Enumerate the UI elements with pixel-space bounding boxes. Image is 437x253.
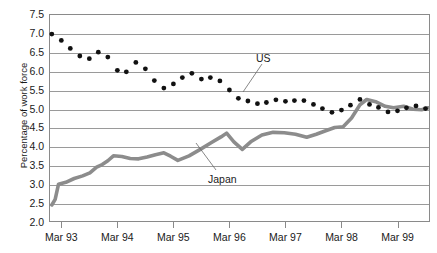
- x-tick-mark: [61, 222, 62, 228]
- gridline: [50, 166, 429, 167]
- y-tick-label: 3.0: [14, 178, 44, 190]
- y-tick-label: 4.0: [14, 140, 44, 152]
- x-tick-label: Mar 99: [381, 231, 414, 243]
- y-tick-label: 2.0: [14, 216, 44, 228]
- x-tick-mark: [229, 222, 230, 228]
- y-tick-label: 7.5: [14, 8, 44, 20]
- gridline: [50, 110, 429, 111]
- chart-root: Percentage of work force 7.57.06.56.05.5…: [0, 0, 437, 253]
- x-tick-label: Mar 98: [325, 231, 358, 243]
- y-tick-label: 6.0: [14, 65, 44, 77]
- x-tick-label: Mar 93: [45, 231, 78, 243]
- x-tick-label: Mar 96: [213, 231, 246, 243]
- y-tick-label: 5.0: [14, 103, 44, 115]
- gridline: [50, 34, 429, 35]
- gridline: [50, 128, 429, 129]
- x-tick-mark: [398, 222, 399, 228]
- gridline: [50, 91, 429, 92]
- y-tick-label: 4.5: [14, 121, 44, 133]
- gridline: [50, 185, 429, 186]
- gridline: [50, 72, 429, 73]
- gridline: [50, 53, 429, 54]
- japan-series-label: Japan: [208, 173, 237, 185]
- x-tick-label: Mar 95: [157, 231, 190, 243]
- x-tick-label: Mar 94: [101, 231, 134, 243]
- x-tick-mark: [285, 222, 286, 228]
- us-series-label: US: [256, 52, 271, 64]
- x-tick-mark: [341, 222, 342, 228]
- gridline: [50, 147, 429, 148]
- gridline: [50, 204, 429, 205]
- plot-area: [49, 14, 430, 222]
- x-tick-mark: [173, 222, 174, 228]
- y-tick-label: 7.0: [14, 27, 44, 39]
- y-tick-label: 3.5: [14, 159, 44, 171]
- x-tick-mark: [117, 222, 118, 228]
- y-tick-label: 5.5: [14, 84, 44, 96]
- x-tick-label: Mar 97: [269, 231, 302, 243]
- y-tick-label: 6.5: [14, 46, 44, 58]
- y-tick-label: 2.5: [14, 197, 44, 209]
